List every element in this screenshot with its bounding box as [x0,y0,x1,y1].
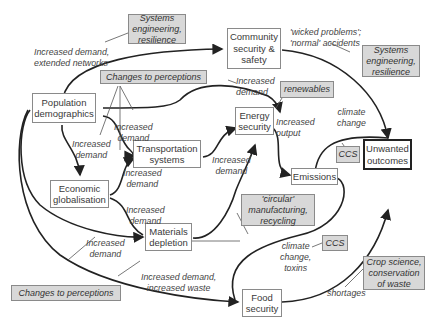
node-unwanted-outcomes: Unwanted outcomes [363,139,412,170]
node-label: Unwanted outcomes [366,143,409,166]
intervention-label: 'circular' manufacturing, recycling [248,194,308,227]
label-demand-waste: Increased demand, increased waste [141,272,216,294]
intervention-changes-perceptions-top: Changes to perceptions [100,70,207,84]
label-extended-networks: Increased demand, extended networks [34,47,109,69]
node-label: Food security [246,292,279,315]
node-economic-globalisation: Economic globalisation [50,180,109,208]
label-demand-pop-econ: Increased demand [72,139,111,161]
label-demand-econ-materials: Increased demand [126,205,165,227]
node-community-security: Community security & safety [227,28,281,69]
intervention-crop-science: Crop science, conservation of waste [363,256,425,290]
intervention-renewables: renewables [280,81,334,98]
node-label: Materials depletion [149,226,188,249]
node-transportation-systems: Transportation systems [133,140,201,168]
label-demand-energy-top: Increased demand [236,76,275,98]
intervention-systems-engineering-top: Systems engineering, resilience [128,14,186,44]
node-energy-security: Energy security [235,107,274,135]
label-shortages: shortages [327,288,366,299]
intervention-label: CCS [325,238,344,249]
intervention-circular-manufacturing: 'circular' manufacturing, recycling [241,194,315,226]
intervention-label: Changes to perceptions [106,72,201,83]
node-label: Population demographics [34,97,94,120]
intervention-changes-perceptions-bottom: Changes to perceptions [11,285,121,301]
label-demand-pop-materials: Increased demand [86,238,125,260]
intervention-label: renewables [284,84,330,95]
label-demand-materials-energy: Increased demand [212,155,251,177]
label-climate-toxins: climate change, toxins [280,241,311,274]
node-materials-depletion: Materials depletion [145,223,192,251]
node-label: Community security & safety [230,31,278,66]
node-label: Transportation systems [137,143,198,166]
label-increased-output: Increased output [276,117,315,139]
label-demand-econ-transport: Increased demand [123,168,162,190]
intervention-label: Systems engineering, resilience [366,45,416,78]
node-emissions: Emissions [291,168,338,185]
intervention-ccs-lower: CCS [322,235,348,251]
intervention-label: Crop science, conservation of waste [366,257,421,290]
intervention-label: Changes to perceptions [18,288,113,299]
node-label: Emissions [293,171,336,183]
label-demand-pop-transport: Increased demand [114,122,153,144]
label-wicked-problems: 'wicked problems'; 'normal' accidents [290,27,361,49]
label-climate-change-upper: climate change [337,107,366,129]
node-label: Energy security [238,110,271,133]
intervention-label: CCS [338,149,357,160]
node-label: Economic globalisation [53,183,106,206]
node-population-demographics: Population demographics [32,93,96,123]
intervention-ccs-upper: CCS [336,146,360,163]
intervention-systems-engineering-right: Systems engineering, resilience [362,45,420,77]
systems-diagram: Population demographics Community securi… [0,0,437,328]
node-food-security: Food security [242,289,282,317]
intervention-label: Systems engineering, resilience [132,13,182,46]
